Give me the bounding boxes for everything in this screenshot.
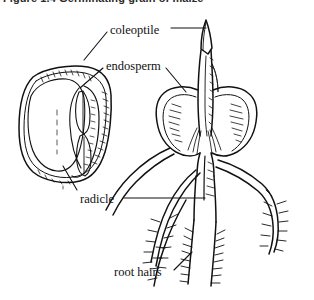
leader-endosperm-left — [80, 68, 103, 88]
figure-root: Figure 1.4 Germinating grain of maize — [0, 0, 314, 300]
label-radicle: radicle — [80, 193, 114, 206]
label-root-hairs: root hairs — [114, 266, 162, 279]
botanical-line-drawing — [0, 0, 314, 300]
leader-coleoptile-left — [84, 32, 107, 60]
label-endosperm: endosperm — [106, 60, 161, 73]
leader-endosperm-right — [166, 68, 186, 92]
label-coleoptile: coleoptile — [110, 24, 159, 37]
